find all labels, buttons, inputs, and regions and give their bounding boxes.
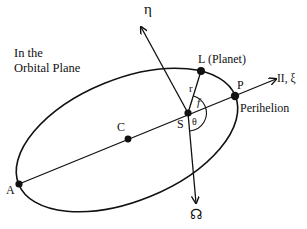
label-L: L (Planet): [198, 52, 246, 66]
point-C: [125, 136, 132, 143]
label-eta: η: [144, 1, 152, 17]
label-A: A: [6, 183, 15, 197]
point-P: [231, 92, 239, 100]
label-theta: θ: [192, 116, 197, 127]
label-S: S: [177, 117, 184, 131]
label-r: r: [189, 82, 193, 94]
label-perihelion: Perihelion: [240, 101, 289, 115]
title-line-2: Orbital Plane: [14, 61, 81, 75]
label-P: P: [237, 78, 244, 92]
point-L: [197, 67, 205, 75]
label-xi: II, ξ: [277, 72, 296, 85]
point-S: [184, 109, 191, 116]
label-f: f: [197, 96, 202, 108]
point-A: [15, 180, 22, 187]
title-line-1: In the: [14, 46, 43, 60]
label-node: ☊: [190, 207, 202, 222]
label-C: C: [117, 120, 125, 134]
orbital-plane-diagram: In the Orbital Plane η II, ξ ☊ L (Planet…: [0, 0, 307, 229]
